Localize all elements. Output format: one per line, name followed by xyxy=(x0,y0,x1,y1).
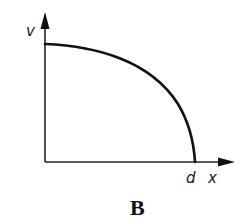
y-axis-arrow-icon xyxy=(41,12,50,29)
graph-diagram: v d x B xyxy=(0,0,246,224)
x-intercept-label: d xyxy=(186,169,196,187)
x-axis-label: x xyxy=(207,169,217,187)
panel-label: B xyxy=(130,195,145,220)
y-axis-label: v xyxy=(26,22,36,40)
x-axis-arrow-icon xyxy=(218,158,235,167)
curve xyxy=(45,44,195,162)
